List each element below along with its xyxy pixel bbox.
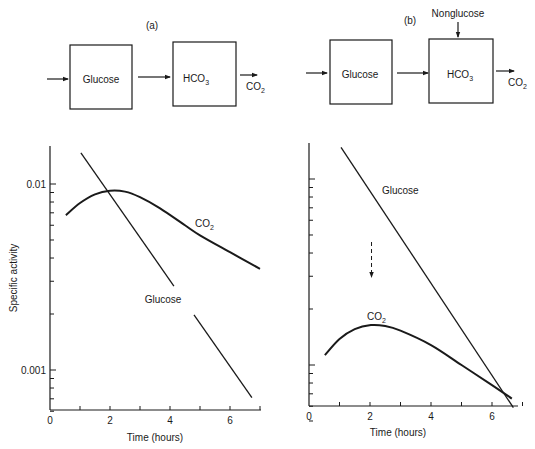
x-tick-label: 6: [227, 415, 233, 426]
chart-b-co2-label: CO2: [367, 311, 386, 324]
chart-b-x-axis-title: Time (hours): [370, 427, 426, 438]
chart-a-axes: 02460.010.001: [21, 146, 261, 426]
glucose-pool-label-b: Glucose: [342, 69, 379, 80]
x-tick-label: 2: [367, 411, 373, 422]
co2-output-label-b: CO2: [508, 77, 527, 90]
compartment-diagram-a: (a) Glucose HCO3 CO2: [47, 20, 265, 109]
bicarbonate-label-a: HCO3: [183, 73, 209, 86]
figure: (a) Glucose HCO3 CO2 (b) Nonglucose Gluc…: [0, 0, 535, 449]
bicarbonate-label-b: HCO3: [447, 69, 473, 82]
chart-a-co2-label: CO2: [195, 218, 214, 231]
series-glucose-line: [341, 147, 513, 407]
x-tick-label: 0: [47, 415, 53, 426]
chart-b-glucose-label: Glucose: [382, 185, 419, 196]
panel-label-a: (a): [146, 20, 158, 31]
x-tick-label: 6: [489, 411, 495, 422]
nonglucose-label: Nonglucose: [432, 8, 485, 19]
chart-a-glucose-label: Glucose: [145, 294, 182, 305]
glucose-pool-label-a: Glucose: [83, 74, 120, 85]
series-glucose-line: [81, 153, 174, 286]
panel-label-b: (b): [404, 15, 416, 26]
x-tick-label: 4: [167, 415, 173, 426]
co2-output-label-a: CO2: [246, 81, 265, 94]
x-tick-label: 4: [428, 411, 434, 422]
chart-a: 02460.010.001 Time (hours) Specific acti…: [8, 146, 261, 443]
y-tick-label: 0.001: [21, 365, 46, 376]
chart-a-y-axis-title: Specific activity: [8, 244, 19, 312]
chart-b-marks: [325, 147, 513, 407]
x-tick-label: 0: [306, 411, 312, 422]
chart-a-marks: [66, 153, 260, 398]
y-tick-label: 0.01: [27, 179, 47, 190]
chart-b: 0246 Time (hours) Glucose CO2: [306, 143, 522, 438]
compartment-diagram-b: (b) Nonglucose Glucose HCO3 CO2: [306, 8, 527, 104]
series-co2-line: [66, 191, 260, 269]
series-glucose-line: [194, 315, 252, 398]
series-co2-line: [325, 325, 512, 399]
x-tick-label: 2: [107, 415, 113, 426]
chart-a-x-axis-title: Time (hours): [127, 432, 183, 443]
